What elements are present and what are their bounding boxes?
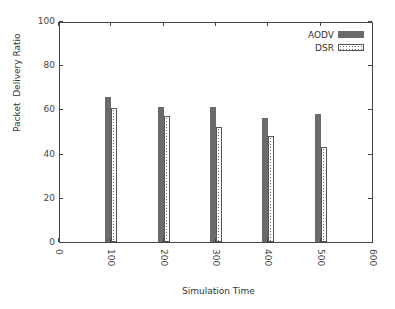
y-tick-mark bbox=[368, 65, 372, 66]
bar-dsr-300 bbox=[216, 127, 222, 242]
legend-item-dsr: DSR bbox=[308, 42, 364, 53]
legend-item-aodv: AODV bbox=[308, 29, 364, 40]
y-tick-mark bbox=[368, 242, 372, 243]
x-tick-mark bbox=[320, 238, 321, 242]
x-axis-label: Simulation Time bbox=[182, 286, 255, 296]
bar-dsr-200 bbox=[164, 116, 170, 242]
x-tick-label: 500 bbox=[316, 249, 326, 266]
y-tick-mark bbox=[368, 109, 372, 110]
y-tick-mark bbox=[59, 242, 63, 243]
legend-swatch-dsr bbox=[338, 44, 364, 51]
bar-dsr-100 bbox=[111, 108, 117, 242]
legend: AODV DSR bbox=[308, 29, 364, 55]
y-tick-label: 80 bbox=[31, 60, 55, 70]
y-tick-label: 40 bbox=[31, 149, 55, 159]
y-tick-mark bbox=[59, 198, 63, 199]
bar-dsr-500 bbox=[321, 147, 327, 242]
x-tick-mark bbox=[215, 238, 216, 242]
y-tick-mark bbox=[59, 109, 63, 110]
x-tick-mark bbox=[110, 22, 111, 26]
y-tick-mark bbox=[368, 198, 372, 199]
y-tick-mark bbox=[59, 65, 63, 66]
x-tick-mark bbox=[372, 238, 373, 242]
x-tick-mark bbox=[267, 238, 268, 242]
legend-label-aodv: AODV bbox=[308, 30, 334, 40]
x-tick-mark bbox=[163, 22, 164, 26]
x-tick-mark bbox=[58, 22, 59, 26]
x-tick-mark bbox=[163, 238, 164, 242]
y-tick-label: 0 bbox=[31, 237, 55, 247]
bar-dsr-400 bbox=[268, 136, 274, 242]
x-tick-mark bbox=[267, 22, 268, 26]
legend-swatch-aodv bbox=[338, 31, 364, 38]
x-tick-label: 200 bbox=[159, 249, 169, 266]
x-tick-label: 400 bbox=[263, 249, 273, 266]
y-tick-label: 20 bbox=[31, 193, 55, 203]
x-tick-mark bbox=[110, 238, 111, 242]
x-tick-label: 600 bbox=[368, 249, 378, 266]
x-tick-mark bbox=[58, 238, 59, 242]
x-tick-label: 100 bbox=[106, 249, 116, 266]
y-tick-label: 100 bbox=[31, 16, 55, 26]
y-tick-mark bbox=[59, 21, 63, 22]
y-axis-label: Packet Delivery Ratio bbox=[12, 34, 22, 133]
x-tick-mark bbox=[215, 22, 216, 26]
y-tick-label: 60 bbox=[31, 104, 55, 114]
y-tick-mark bbox=[59, 154, 63, 155]
plot-area: AODV DSR bbox=[59, 22, 373, 243]
x-tick-label: 300 bbox=[211, 249, 221, 266]
x-tick-mark bbox=[372, 22, 373, 26]
x-tick-mark bbox=[320, 22, 321, 26]
x-tick-label: 0 bbox=[54, 249, 64, 255]
y-tick-mark bbox=[368, 154, 372, 155]
legend-label-dsr: DSR bbox=[315, 43, 334, 53]
